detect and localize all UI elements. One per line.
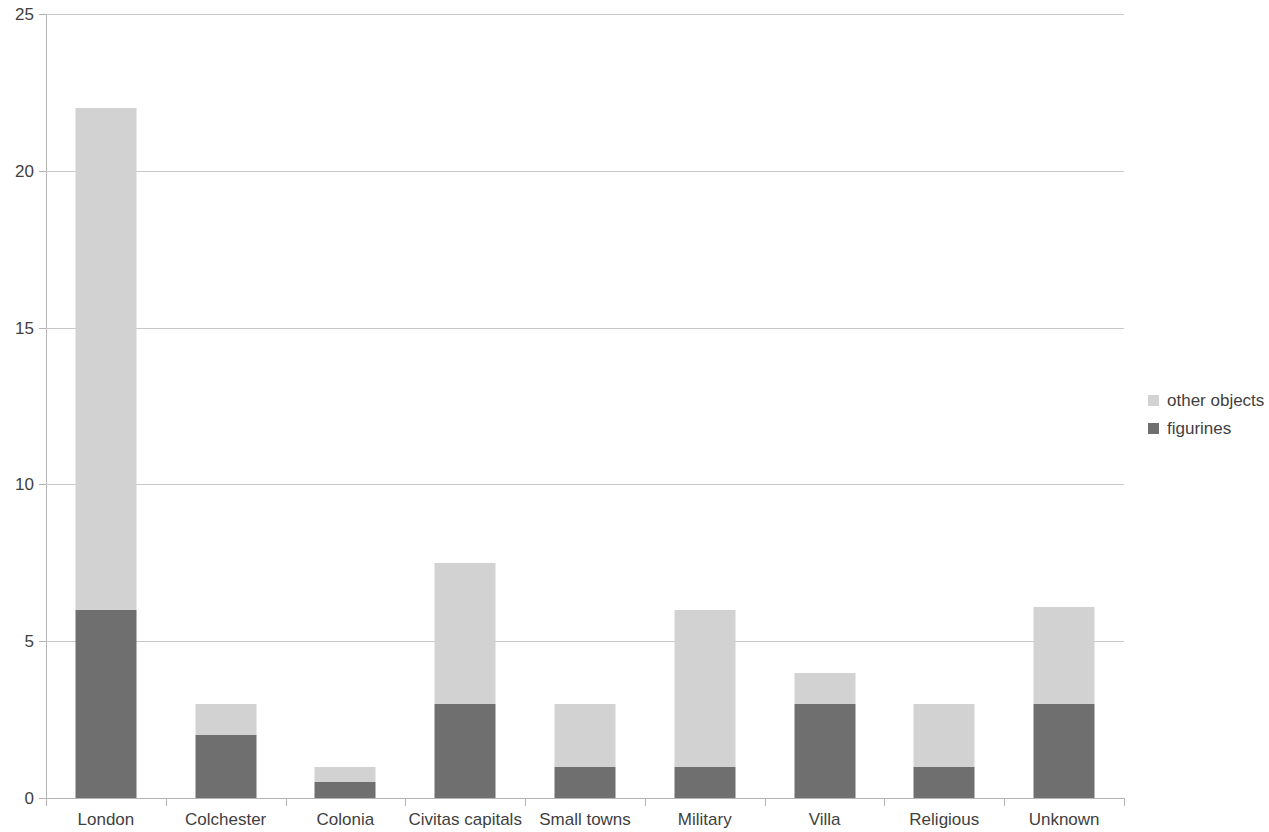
bar-stack[interactable] — [914, 704, 975, 798]
y-tick-mark — [39, 14, 46, 15]
x-axis-tick-label: Small towns — [525, 810, 645, 830]
bar-group — [166, 14, 286, 798]
legend-swatch-icon-figurines — [1148, 423, 1159, 434]
x-tick-mark — [765, 798, 766, 806]
x-axis-tick-label: London — [46, 810, 166, 830]
x-axis-tick-label: Villa — [765, 810, 885, 830]
legend-item-other-objects[interactable]: other objects — [1148, 386, 1266, 414]
bar-group — [405, 14, 525, 798]
x-tick-mark — [286, 798, 287, 806]
x-tick-mark — [525, 798, 526, 806]
bar-segment-other-objects[interactable] — [554, 704, 615, 767]
bar-segment-figurines[interactable] — [674, 767, 735, 798]
bar-segment-other-objects[interactable] — [1034, 607, 1095, 704]
bar-segment-figurines[interactable] — [554, 767, 615, 798]
bar-stack[interactable] — [794, 673, 855, 798]
x-tick-mark — [645, 798, 646, 806]
x-axis-tick-label: Colonia — [286, 810, 406, 830]
x-axis-tick-label: Military — [645, 810, 765, 830]
y-tick-mark — [39, 171, 46, 172]
bar-stack[interactable] — [195, 704, 256, 798]
y-tick-mark — [39, 328, 46, 329]
bar-segment-other-objects[interactable] — [435, 563, 496, 704]
y-tick-mark — [39, 798, 46, 799]
bar-group — [286, 14, 406, 798]
bar-segment-figurines[interactable] — [315, 782, 376, 798]
legend-label-other-objects: other objects — [1167, 392, 1264, 409]
x-tick-mark — [46, 798, 47, 806]
x-tick-mark — [1124, 798, 1125, 806]
x-axis-tick-label: Religious — [884, 810, 1004, 830]
bar-stack[interactable] — [435, 563, 496, 798]
legend-label-figurines: figurines — [1167, 420, 1231, 437]
bar-group — [765, 14, 885, 798]
x-axis-tick-labels: LondonColchesterColoniaCivitas capitalsS… — [46, 810, 1124, 832]
bar-segment-figurines[interactable] — [75, 610, 136, 798]
bar-segment-other-objects[interactable] — [794, 673, 855, 704]
bar-segment-other-objects[interactable] — [315, 767, 376, 783]
y-axis-tick-label: 20 — [0, 163, 34, 180]
y-axis-tick-label: 25 — [0, 6, 34, 23]
chart-legend: other objects figurines — [1148, 386, 1266, 442]
x-tick-mark — [1004, 798, 1005, 806]
bar-group — [1004, 14, 1124, 798]
y-tick-mark — [39, 484, 46, 485]
bar-stack[interactable] — [1034, 607, 1095, 798]
x-axis-tick-label: Civitas capitals — [405, 810, 525, 830]
stacked-bar-chart: 0510152025 LondonColchesterColoniaCivita… — [0, 0, 1269, 832]
x-axis-tick-label: Colchester — [166, 810, 286, 830]
bar-group — [46, 14, 166, 798]
bar-segment-figurines[interactable] — [1034, 704, 1095, 798]
bar-segment-figurines[interactable] — [195, 735, 256, 798]
bar-stack[interactable] — [315, 767, 376, 798]
bar-stack[interactable] — [674, 610, 735, 798]
legend-item-figurines[interactable]: figurines — [1148, 414, 1266, 442]
x-tick-mark — [884, 798, 885, 806]
bar-segment-figurines[interactable] — [794, 704, 855, 798]
bars-layer — [46, 14, 1124, 798]
bar-segment-other-objects[interactable] — [75, 108, 136, 610]
x-axis-tick-label: Unknown — [1004, 810, 1124, 830]
bar-segment-other-objects[interactable] — [674, 610, 735, 767]
y-axis-tick-label: 15 — [0, 320, 34, 337]
y-axis-tick-label: 0 — [0, 790, 34, 807]
legend-swatch-icon-other-objects — [1148, 395, 1159, 406]
bar-stack[interactable] — [554, 704, 615, 798]
x-tick-mark — [166, 798, 167, 806]
bar-stack[interactable] — [75, 108, 136, 798]
y-axis-tick-label: 5 — [0, 633, 34, 650]
bar-segment-other-objects[interactable] — [195, 704, 256, 735]
x-tick-mark — [405, 798, 406, 806]
y-axis-tick-label: 10 — [0, 476, 34, 493]
bar-segment-figurines[interactable] — [435, 704, 496, 798]
bar-group — [525, 14, 645, 798]
bar-group — [884, 14, 1004, 798]
bar-segment-other-objects[interactable] — [914, 704, 975, 767]
x-axis-tick-marks — [46, 798, 1124, 808]
bar-segment-figurines[interactable] — [914, 767, 975, 798]
y-tick-mark — [39, 641, 46, 642]
bar-group — [645, 14, 765, 798]
